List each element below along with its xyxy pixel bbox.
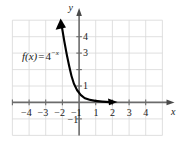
x-axis-arrowhead xyxy=(167,100,175,106)
graph-canvas xyxy=(0,0,183,142)
x-tick-label--3: −3 xyxy=(38,108,49,118)
x-tick-label--4: −4 xyxy=(21,108,32,118)
x-tick-label-2: 2 xyxy=(110,108,115,118)
x-tick-label-4: 4 xyxy=(143,108,148,118)
y-axis-arrowhead xyxy=(76,8,82,16)
y-tick-label-1: 1 xyxy=(83,81,88,91)
x-tick-label-3: 3 xyxy=(127,108,132,118)
y-tick-label--1: −1 xyxy=(68,115,79,125)
function-equation-label: f(x)=4−x xyxy=(22,51,59,62)
exponential-decay-graph-figure: −4 −3 −2 −1 1 2 3 4 4 3 1 −1 y x f(x)=4−… xyxy=(0,0,183,142)
function-argument: (x) xyxy=(25,50,37,62)
y-tick-label-3: 3 xyxy=(83,48,88,58)
y-tick-label-4: 4 xyxy=(83,32,88,42)
x-tick-label-1: 1 xyxy=(93,108,98,118)
x-tick-label--2: −2 xyxy=(54,108,65,118)
equals-sign: = xyxy=(37,50,45,62)
y-axis-label: y xyxy=(69,3,73,13)
x-axis-label: x xyxy=(171,107,175,117)
function-exponent: −x xyxy=(51,49,59,57)
